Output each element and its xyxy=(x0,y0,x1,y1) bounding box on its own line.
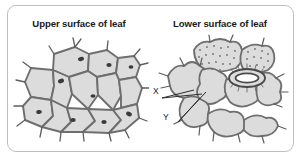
leaf-surface-figure: Upper surface of leaf xyxy=(0,0,301,157)
label-y: Y xyxy=(163,112,169,122)
panel-upper-surface: Upper surface of leaf xyxy=(9,8,149,145)
upper-epidermis-cells-diagram xyxy=(9,34,149,144)
label-x: X xyxy=(153,86,159,96)
panel-upper-title: Upper surface of leaf xyxy=(9,18,149,29)
panel-lower-surface: Lower surface of leaf xyxy=(150,8,290,145)
lower-epidermis-cells-diagram xyxy=(150,34,290,144)
panel-lower-title: Lower surface of leaf xyxy=(150,18,290,29)
